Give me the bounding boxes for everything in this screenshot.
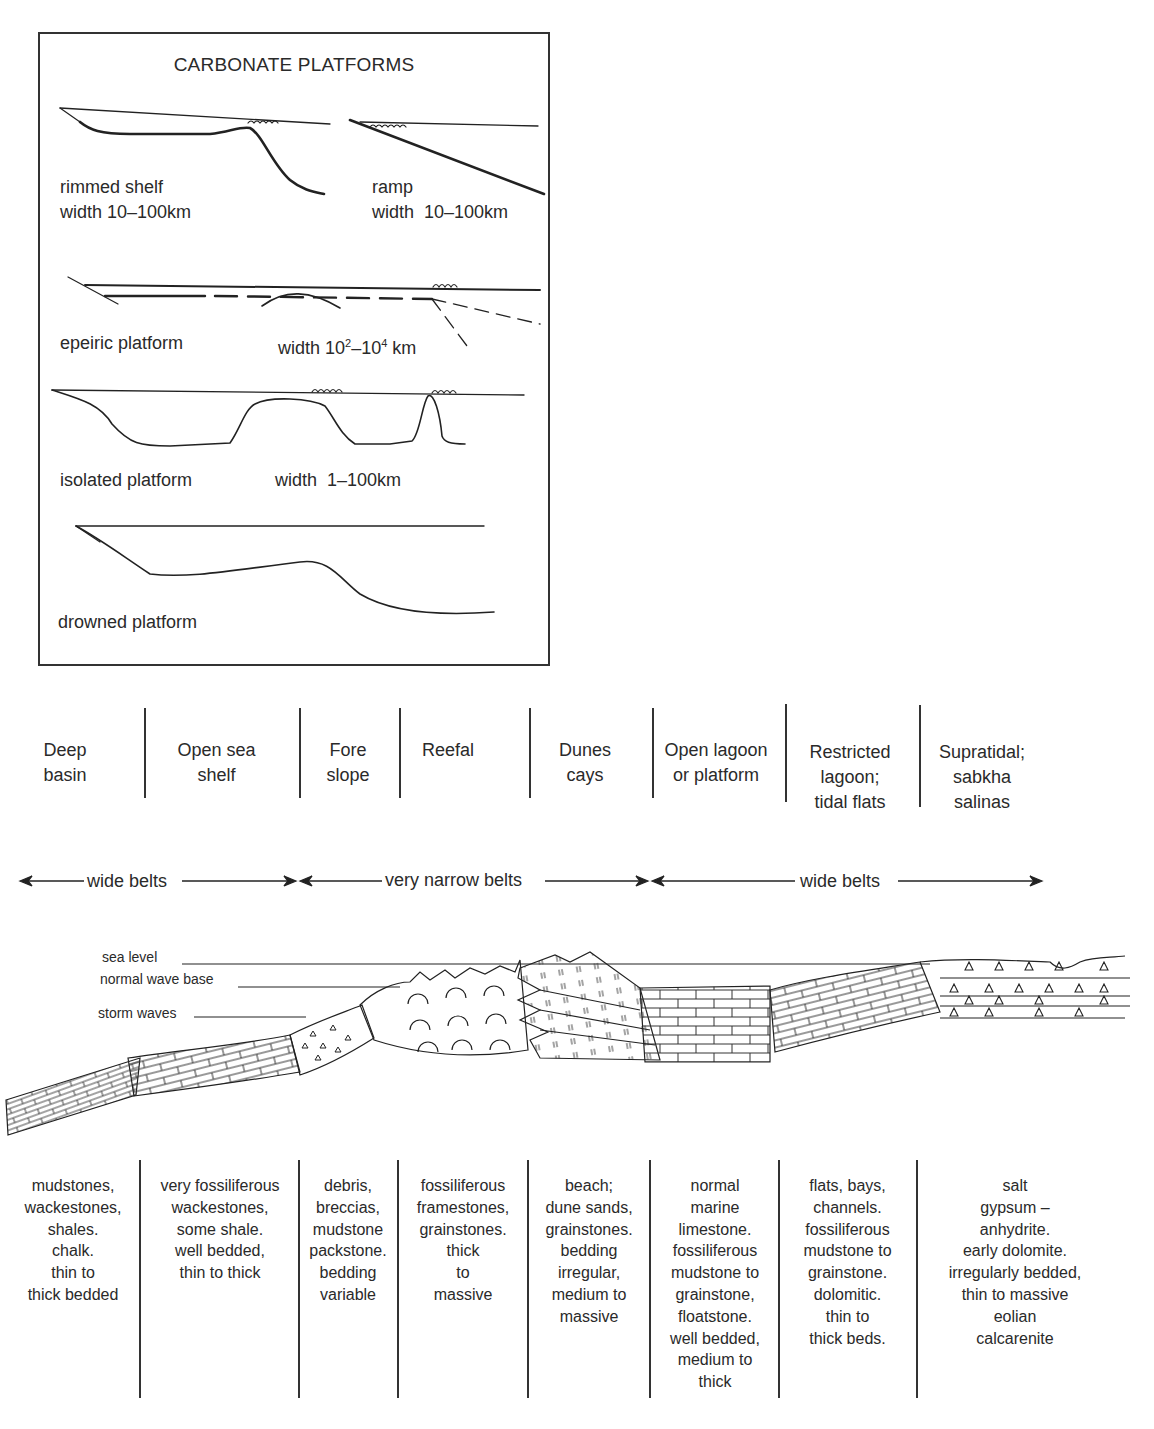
description-supratidal: saltgypsum –anhydrite.early dolomite.irr…: [925, 1175, 1105, 1349]
description-deep-basin: mudstones,wackestones,shales.chalk.thin …: [8, 1175, 138, 1306]
description-fore-slope: debris,breccias,mudstonepackstone.beddin…: [300, 1175, 396, 1306]
description-reefal: fossiliferousframestones,grainstones.thi…: [399, 1175, 527, 1306]
description-open-lagoon: normalmarinelimestone.fossiliferousmudst…: [651, 1175, 779, 1393]
column-divider: [139, 1160, 141, 1398]
description-dunes-cays: beach;dune sands,grainstones.beddingirre…: [529, 1175, 649, 1328]
description-restricted-lagoon: flats, bays,channels.fossiliferousmudsto…: [780, 1175, 915, 1349]
description-open-sea-shelf: very fossiliferouswackestones,some shale…: [142, 1175, 298, 1284]
column-divider: [916, 1160, 918, 1398]
